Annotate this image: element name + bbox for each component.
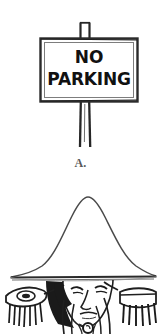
figure-sheet: NO PARKING A.	[0, 0, 161, 334]
panel-a-no-parking-sign: NO PARKING A.	[0, 0, 161, 178]
post-shaft-icon	[80, 102, 90, 147]
post-top-stub-icon	[80, 23, 90, 40]
panel-a-caption: A.	[0, 156, 161, 170]
sign-text-line1: NO	[75, 47, 103, 67]
no-parking-sign-drawing: NO PARKING	[0, 0, 161, 178]
bicorne-hat-icon	[11, 197, 157, 281]
napoleon-portrait-drawing	[0, 178, 161, 334]
panel-b-napoleon-portrait	[0, 178, 161, 334]
left-epaulette-icon	[6, 288, 47, 327]
right-epaulette-icon	[120, 288, 156, 326]
sign-text-line2: PARKING	[47, 69, 130, 89]
